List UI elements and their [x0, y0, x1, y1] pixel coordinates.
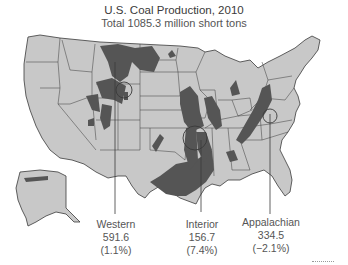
region-value: 156.7: [178, 231, 226, 244]
region-label-interior: Interior 156.7 (7.4%): [178, 218, 226, 257]
region-name: Interior: [178, 218, 226, 231]
region-change: (−2.1%): [238, 242, 304, 255]
region-name: Appalachian: [238, 216, 304, 229]
region-value: 591.6: [92, 231, 140, 244]
region-name: Western: [92, 218, 140, 231]
region-label-appalachian: Appalachian 334.5 (−2.1%): [238, 216, 304, 255]
cropped-text-fragment: [312, 261, 334, 265]
region-label-western: Western 591.6 (1.1%): [92, 218, 140, 257]
region-change: (7.4%): [178, 244, 226, 257]
region-value: 334.5: [238, 229, 304, 242]
region-change: (1.1%): [92, 244, 140, 257]
